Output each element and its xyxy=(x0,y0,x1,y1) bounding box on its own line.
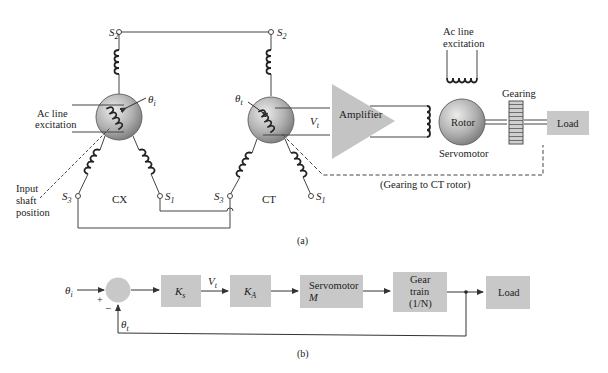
input-label-1: Input xyxy=(16,183,38,194)
input-theta-label: θi xyxy=(65,284,73,299)
ct-s2-terminal xyxy=(269,30,274,35)
cx-s1-label: S1 xyxy=(165,190,175,205)
minus-sign: − xyxy=(105,302,111,314)
block-diagram xyxy=(77,272,530,336)
cx-s3-terminal xyxy=(76,194,81,199)
cx-s2-coil xyxy=(115,50,120,74)
gear-train-line2: train xyxy=(410,286,430,297)
gear-train-line1: Gear xyxy=(410,274,431,285)
cx-rotor-circle xyxy=(96,94,142,140)
gearing-feedback-dashed-line xyxy=(282,134,543,175)
plus-sign: + xyxy=(97,294,103,305)
ct-label: CT xyxy=(262,193,276,205)
summing-junction xyxy=(106,278,131,303)
amplifier-triangle xyxy=(332,84,395,159)
caption-a: (a) xyxy=(297,235,308,247)
ct-s2-label: S2 xyxy=(277,26,287,41)
servo-system-diagram: S2 S2 θi θt Ac line excitation Input sha… xyxy=(0,0,608,373)
ct-s3-terminal xyxy=(228,194,233,199)
servomotor-block-m: M xyxy=(308,292,319,303)
ct-s1-terminal xyxy=(309,194,314,199)
ct-s1-label: S1 xyxy=(316,190,326,205)
vt-label: Vt xyxy=(310,115,320,130)
gearing xyxy=(509,101,523,144)
cx-angle-label: θi xyxy=(148,93,156,108)
load-label-b: Load xyxy=(498,287,520,298)
cx-s1-terminal xyxy=(158,194,163,199)
gearing-note: (Gearing to CT rotor) xyxy=(380,179,471,191)
servomotor-label: Servomotor xyxy=(439,148,489,159)
input-label-2: shaft xyxy=(16,195,36,206)
cx-label: CX xyxy=(112,193,127,205)
cx-s2-label: S2 xyxy=(109,26,119,41)
ct-synchro xyxy=(228,30,331,199)
ct-angle-label: θt xyxy=(235,92,243,107)
input-label-3: position xyxy=(16,207,51,218)
amplifier-label: Amplifier xyxy=(339,108,383,120)
feedback-theta-label: θt xyxy=(121,318,129,333)
cx-excitation-label-2: excitation xyxy=(35,119,77,130)
rotor-label: Rotor xyxy=(451,117,475,128)
vt-signal-label: Vt xyxy=(208,275,218,290)
load-label-a: Load xyxy=(557,118,579,129)
gear-train-line3: (1/N) xyxy=(409,298,432,310)
ct-rotor-circle xyxy=(248,97,294,143)
servomotor-block-label: Servomotor xyxy=(309,280,359,291)
s1-s3-wiring xyxy=(78,199,233,228)
cx-excitation-label-1: Ac line xyxy=(37,108,68,119)
caption-b: (b) xyxy=(297,348,309,360)
cx-s3-label: S3 xyxy=(62,190,72,205)
servo-control-coil xyxy=(427,106,430,137)
gearing-label: Gearing xyxy=(502,88,537,99)
servo-excitation-label-2: excitation xyxy=(443,38,485,49)
servo-excitation-coil xyxy=(447,78,477,83)
servo-excitation-label-1: Ac line xyxy=(443,26,474,37)
ct-s3-label: S3 xyxy=(214,190,224,205)
ct-s2-coil xyxy=(267,50,272,74)
